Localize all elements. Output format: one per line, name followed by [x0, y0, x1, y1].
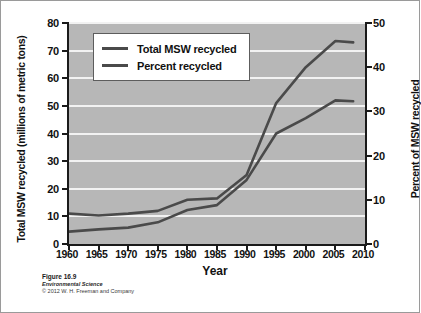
x-axis-tick-label: 1990	[234, 248, 256, 260]
x-axis-tick-label: 1960	[56, 248, 78, 260]
x-axis-tick-label: 2000	[293, 248, 315, 260]
y-axis-left-tick-label: 30	[47, 155, 59, 167]
caption-book-title: Environmental Science	[42, 281, 134, 288]
y-axis-left-tick-label: 40	[47, 128, 59, 140]
x-axis-tick-label: 1980	[175, 248, 197, 260]
y-axis-left-tick-label: 60	[47, 72, 59, 84]
y-axis-left-tick-mark	[62, 160, 69, 162]
y-axis-title-right: Percent of MSW recycled	[409, 23, 421, 255]
x-axis-tick-labels: 1960196519701975198019851990199520002005…	[67, 248, 363, 264]
caption-copyright: © 2012 W. H. Freeman and Company	[42, 288, 134, 295]
y-axis-left-tick-mark	[62, 188, 69, 190]
x-axis-tick-label: 2005	[323, 248, 345, 260]
x-axis-tick-label: 1965	[86, 248, 108, 260]
y-axis-right-tick-label: 10	[373, 194, 385, 206]
y-axis-right-tick-labels: 01020304050	[373, 23, 399, 244]
y-axis-left-tick-mark	[62, 105, 69, 107]
x-axis-tick-label: 2010	[352, 248, 374, 260]
y-axis-right-tick-mark	[365, 110, 372, 112]
figure-caption: Figure 16.9 Environmental Science © 2012…	[42, 273, 134, 295]
legend-item-percent-recycled: Percent recycled	[102, 57, 237, 74]
y-axis-left-tick-mark	[62, 22, 69, 24]
plot-area: Total MSW recycled Percent recycled	[67, 23, 367, 246]
y-axis-left-tick-mark	[62, 133, 69, 135]
y-axis-right-tick-label: 50	[373, 17, 385, 29]
line-percent-recycled	[69, 100, 353, 231]
legend-item-total-msw-recycled: Total MSW recycled	[102, 40, 237, 57]
y-axis-left-tick-label: 20	[47, 183, 59, 195]
y-axis-left-tick-label: 50	[47, 100, 59, 112]
y-axis-right-tick-mark	[365, 199, 372, 201]
x-axis-tick-label: 1970	[115, 248, 137, 260]
y-axis-right-tick-mark	[365, 66, 372, 68]
y-axis-left-tick-label: 80	[47, 17, 59, 29]
x-axis-tick-label: 1985	[204, 248, 226, 260]
y-axis-right-tick-mark	[365, 243, 372, 245]
chart-legend: Total MSW recycled Percent recycled	[93, 33, 250, 81]
caption-figure-number: Figure 16.9	[42, 273, 134, 281]
legend-label: Total MSW recycled	[137, 43, 237, 55]
y-axis-right-tick-label: 40	[373, 61, 385, 73]
y-axis-right-tick-mark	[365, 155, 372, 157]
y-axis-left-tick-mark	[62, 215, 69, 217]
y-axis-right-tick-mark	[365, 22, 372, 24]
legend-label: Percent recycled	[137, 60, 222, 72]
y-axis-right-tick-label: 20	[373, 150, 385, 162]
legend-swatch-icon	[102, 47, 128, 50]
y-axis-left-tick-mark	[62, 50, 69, 52]
x-axis-tick-label: 1995	[263, 248, 285, 260]
y-axis-left-tick-mark	[62, 77, 69, 79]
y-axis-right-tick-label: 30	[373, 105, 385, 117]
y-axis-left-tick-label: 10	[47, 210, 59, 222]
legend-swatch-icon	[102, 64, 128, 67]
y-axis-left-tick-labels: 01020304050607080	[25, 23, 59, 244]
y-axis-left-tick-label: 70	[47, 45, 59, 57]
x-axis-tick-label: 1975	[145, 248, 167, 260]
